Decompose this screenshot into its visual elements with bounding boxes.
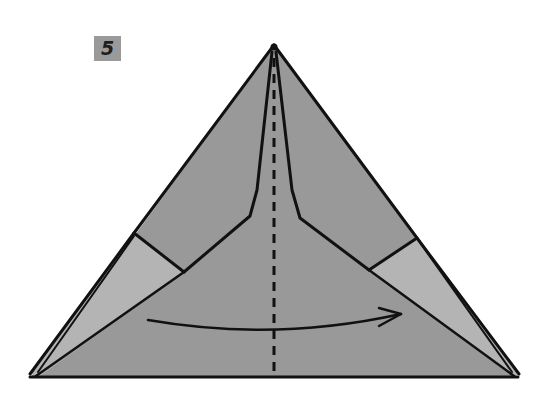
apex-point: [271, 44, 278, 51]
origami-diagram: [0, 0, 547, 407]
